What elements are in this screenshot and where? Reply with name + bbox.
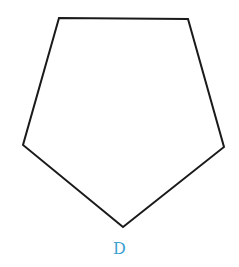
shape-label: D [0, 239, 239, 259]
diagram-canvas [0, 0, 239, 267]
pentagon-shape [23, 18, 224, 227]
